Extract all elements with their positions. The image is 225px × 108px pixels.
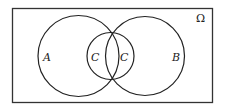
set-c-label-left: C <box>91 51 100 64</box>
venn-diagram: Ω A B C C <box>0 0 225 108</box>
set-b-label: B <box>171 51 180 64</box>
set-c-label-right: C <box>120 51 129 64</box>
universe-label: Ω <box>196 12 205 25</box>
set-a-label: A <box>42 51 51 64</box>
